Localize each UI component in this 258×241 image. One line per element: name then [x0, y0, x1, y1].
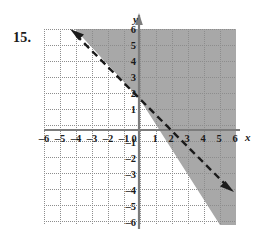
- ytick-6: 6: [126, 25, 136, 36]
- y-axis-label: y: [133, 13, 138, 25]
- problem-number: 15.: [13, 30, 31, 46]
- xtick--4: –4: [71, 134, 82, 145]
- xtick-5: 5: [216, 134, 221, 145]
- ytick-5: 5: [126, 41, 136, 52]
- ytick--2: –2: [122, 154, 136, 165]
- xtick--3: –3: [87, 134, 98, 145]
- xtick--6: –6: [39, 134, 50, 145]
- xtick-2: 2: [168, 134, 173, 145]
- ytick--5: –5: [122, 202, 136, 213]
- boundary-line: [44, 29, 236, 225]
- ytick--3: –3: [122, 170, 136, 181]
- xtick-3: 3: [184, 134, 189, 145]
- xtick-4: 4: [200, 134, 205, 145]
- xtick--2: –2: [103, 134, 114, 145]
- ytick-1: 1: [126, 105, 136, 116]
- x-axis-label: x: [245, 131, 251, 143]
- ytick--6: –6: [122, 218, 136, 229]
- ytick--1: –1: [122, 138, 136, 149]
- coordinate-plane: [44, 29, 236, 225]
- xtick-6: 6: [232, 134, 237, 145]
- ytick--4: –4: [122, 186, 136, 197]
- xtick--5: –5: [55, 134, 66, 145]
- ytick-4: 4: [126, 57, 136, 68]
- ytick-3: 3: [126, 73, 136, 84]
- ytick-2: 2: [126, 89, 136, 100]
- xtick-1: 1: [152, 134, 157, 145]
